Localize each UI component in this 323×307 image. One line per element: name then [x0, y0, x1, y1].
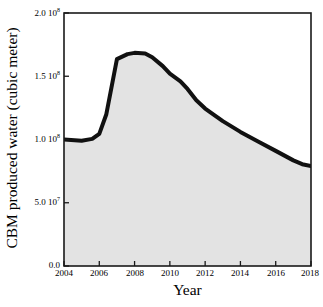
area-fill: [64, 53, 311, 266]
x-axis-title: Year: [64, 281, 311, 299]
x-tick-label: 2008: [126, 269, 144, 278]
x-tick-label: 2016: [267, 269, 285, 278]
chart-figure: CBM produced water (cubic meter) 2.0 108…: [0, 0, 323, 307]
x-tick-label: 2004: [55, 269, 73, 278]
x-tick-label: 2010: [161, 269, 179, 278]
area-series-group: [64, 53, 311, 266]
x-tick-label: 2018: [301, 269, 319, 278]
x-tick-label: 2012: [196, 269, 214, 278]
x-tick-label: 2014: [231, 269, 249, 278]
x-tick-label: 2006: [90, 269, 108, 278]
plot-area: [0, 0, 323, 307]
